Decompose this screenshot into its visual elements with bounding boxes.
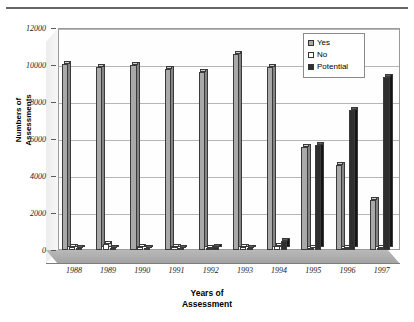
bar-top bbox=[371, 197, 377, 200]
bar-side bbox=[308, 144, 311, 247]
legend-label: No bbox=[317, 50, 327, 59]
bar-no-1991 bbox=[171, 247, 177, 250]
bar-top bbox=[132, 62, 138, 65]
bar-side bbox=[321, 142, 324, 247]
bar-potential-1995 bbox=[315, 145, 321, 250]
x-axis-tick-label-1990: 1990 bbox=[134, 266, 150, 275]
bar-potential-1996 bbox=[349, 110, 355, 250]
bar-top bbox=[269, 64, 275, 67]
legend-item-yes[interactable]: Yes bbox=[308, 37, 360, 48]
bar-yes-1992 bbox=[199, 72, 205, 250]
bar-top bbox=[235, 51, 241, 54]
y-axis-tick-mark bbox=[51, 250, 56, 251]
x-axis-title-line1: Years of bbox=[0, 288, 414, 299]
legend-swatch-yes-icon bbox=[308, 40, 314, 46]
bar-side bbox=[171, 66, 174, 247]
bar-potential-1994 bbox=[281, 241, 287, 250]
bar-no-1989 bbox=[103, 244, 109, 250]
bar-no-1995 bbox=[308, 248, 314, 250]
bar-face bbox=[342, 248, 348, 250]
bar-potential-1990 bbox=[144, 248, 150, 250]
bar-top bbox=[385, 74, 391, 77]
bar-top bbox=[173, 244, 179, 247]
y-axis-tick-mark bbox=[51, 213, 56, 214]
bar-top bbox=[180, 245, 186, 248]
bar-top bbox=[64, 61, 70, 64]
legend-item-potential[interactable]: Potential bbox=[308, 61, 360, 72]
bar-yes-1990 bbox=[130, 65, 136, 250]
x-axis-tick-label-1989: 1989 bbox=[100, 266, 116, 275]
bar-top bbox=[241, 244, 247, 247]
bar-yes-1988 bbox=[62, 64, 68, 250]
x-axis-ticks: 1988198919901991199219931994199519961997 bbox=[0, 266, 414, 282]
y-axis-tick-mark bbox=[51, 28, 56, 29]
legend-label: Yes bbox=[317, 38, 330, 47]
x-axis-tick-label-1997: 1997 bbox=[374, 266, 390, 275]
bar-top bbox=[98, 64, 104, 67]
bar-top bbox=[146, 245, 152, 248]
bar-yes-1991 bbox=[165, 69, 171, 250]
bar-face bbox=[171, 247, 177, 250]
bar-face bbox=[178, 248, 184, 250]
bar-yes-1997 bbox=[370, 200, 376, 250]
bar-top bbox=[105, 241, 111, 244]
y-axis-tick-label: 12000 bbox=[26, 24, 46, 33]
bar-face bbox=[247, 248, 253, 250]
bar-face bbox=[69, 247, 75, 250]
bar-top bbox=[139, 244, 145, 247]
legend-swatch-potential-icon bbox=[308, 64, 314, 70]
bar-side bbox=[137, 62, 140, 247]
chart-legend[interactable]: YesNoPotential bbox=[303, 33, 365, 78]
bar-top bbox=[351, 107, 357, 110]
bar-face bbox=[137, 247, 143, 250]
bar-top bbox=[77, 245, 83, 248]
y-axis-tick-mark bbox=[51, 176, 56, 177]
x-axis-tick-label-1988: 1988 bbox=[66, 266, 82, 275]
bar-potential-1991 bbox=[178, 248, 184, 250]
bar-side bbox=[355, 107, 358, 247]
bar-top bbox=[214, 244, 220, 247]
bar-side bbox=[390, 74, 393, 247]
bar-no-1988 bbox=[69, 247, 75, 250]
x-axis-tick-label-1995: 1995 bbox=[305, 266, 321, 275]
bar-top bbox=[200, 69, 206, 72]
bar-face bbox=[212, 247, 218, 250]
bar-side bbox=[205, 69, 208, 247]
bar-no-1996 bbox=[342, 248, 348, 250]
bar-top bbox=[317, 142, 323, 145]
y-axis-title-line2: Assessments bbox=[24, 60, 34, 180]
bar-no-1997 bbox=[377, 248, 383, 250]
bar-top bbox=[70, 244, 76, 247]
y-axis-tick-mark bbox=[51, 65, 56, 66]
bar-yes-1996 bbox=[336, 165, 342, 250]
legend-swatch-no-icon bbox=[308, 52, 314, 58]
bar-face bbox=[76, 248, 82, 250]
legend-item-no[interactable]: No bbox=[308, 49, 360, 60]
bar-top bbox=[111, 245, 117, 248]
bar-potential-1992 bbox=[212, 247, 218, 250]
bar-yes-1989 bbox=[96, 67, 102, 250]
bar-face bbox=[206, 248, 212, 250]
bar-face bbox=[308, 248, 314, 250]
y-axis-tick-label: 0 bbox=[42, 246, 46, 255]
x-axis-title-line2: Assessment bbox=[0, 299, 414, 310]
x-axis-tick-label-1996: 1996 bbox=[340, 266, 356, 275]
bar-top bbox=[248, 245, 254, 248]
bar-potential-1997 bbox=[383, 77, 389, 250]
bar-top bbox=[282, 238, 288, 241]
bar-side bbox=[102, 64, 105, 247]
bar-potential-1993 bbox=[247, 248, 253, 250]
bar-top bbox=[303, 144, 309, 147]
bar-face bbox=[377, 248, 383, 250]
bar-face bbox=[110, 248, 116, 250]
chart-figure: 120001000080006000400020000 Numbers of A… bbox=[0, 0, 414, 322]
x-axis-tick-label-1994: 1994 bbox=[271, 266, 287, 275]
bar-face bbox=[144, 248, 150, 250]
bar-top bbox=[337, 162, 343, 165]
y-axis-tick-label: 2000 bbox=[30, 209, 46, 218]
y-axis-title: Numbers of Assessments bbox=[14, 60, 34, 180]
bar-no-1990 bbox=[137, 247, 143, 250]
bar-yes-1993 bbox=[233, 54, 239, 250]
bar-face bbox=[240, 247, 246, 250]
bar-yes-1995 bbox=[301, 147, 307, 250]
